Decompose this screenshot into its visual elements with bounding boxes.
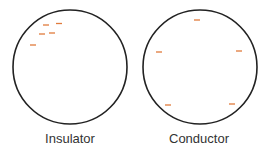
diagram-canvas — [0, 0, 268, 152]
conductor-label: Conductor — [149, 131, 249, 146]
insulator-diagram — [13, 10, 127, 124]
sphere-outline — [13, 10, 127, 124]
sphere-outline — [143, 10, 257, 124]
insulator-label: Insulator — [20, 131, 120, 146]
conductor-diagram — [143, 10, 257, 124]
